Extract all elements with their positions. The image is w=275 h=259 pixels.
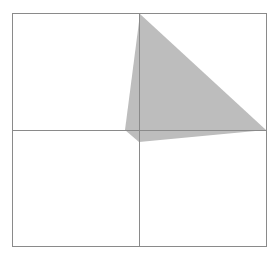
diagram-canvas xyxy=(0,0,275,259)
shaded-polygon xyxy=(125,14,266,142)
